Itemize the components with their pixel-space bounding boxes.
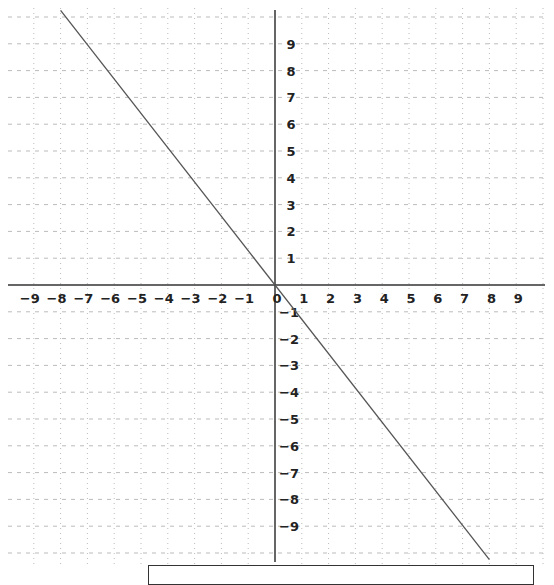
y-tick-label: 3: [286, 198, 295, 213]
x-tick-label: 2: [326, 291, 335, 306]
x-tick-label: −7: [73, 291, 93, 306]
x-tick-label: 4: [380, 291, 389, 306]
x-tick-label: 6: [433, 291, 442, 306]
y-tick-label: 8: [286, 64, 295, 79]
y-tick-label: 9: [286, 37, 295, 52]
y-tick-label: 2: [286, 224, 295, 239]
x-tick-label: −6: [100, 291, 120, 306]
y-tick-label: −9: [279, 519, 299, 534]
x-tick-label: −9: [20, 291, 40, 306]
x-tick-label: −1: [234, 291, 254, 306]
x-tick-label: −8: [47, 291, 67, 306]
input-box[interactable]: [148, 565, 534, 585]
x-tick-label: −5: [127, 291, 147, 306]
x-tick-label: −3: [181, 291, 201, 306]
y-tick-label: 6: [286, 117, 295, 132]
x-tick-label: −4: [154, 291, 174, 306]
x-tick-label: 1: [299, 291, 308, 306]
y-tick-label: 1: [286, 251, 295, 266]
y-tick-label: −4: [279, 385, 299, 400]
y-tick-label: −8: [279, 492, 299, 507]
y-tick-label: 4: [286, 171, 295, 186]
y-tick-label: 5: [286, 144, 295, 159]
x-tick-label: 5: [406, 291, 415, 306]
y-tick-label: −3: [279, 358, 299, 373]
x-tick-label: −2: [207, 291, 227, 306]
y-tick-label: −7: [279, 466, 299, 481]
x-tick-label: 0: [272, 291, 281, 306]
x-tick-label: 8: [487, 291, 496, 306]
x-tick-label: 7: [460, 291, 469, 306]
y-tick-label: −6: [279, 439, 299, 454]
x-tick-label: 9: [514, 291, 523, 306]
y-tick-label: 7: [286, 90, 295, 105]
x-axis-tick-labels: −9−8−7−6−5−4−3−2−10123456789: [20, 291, 523, 306]
y-tick-label: −5: [279, 412, 299, 427]
x-tick-label: 3: [353, 291, 362, 306]
y-tick-label: −2: [279, 332, 299, 347]
